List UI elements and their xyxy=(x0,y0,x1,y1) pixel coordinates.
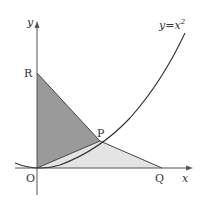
point-label-P: P xyxy=(97,127,105,140)
y-axis-arrow-icon xyxy=(35,21,40,28)
axis-x-label: x xyxy=(182,172,189,185)
diagram-figure: y x R P O Q y=x2 xyxy=(0,0,209,203)
point-label-Q: Q xyxy=(155,172,164,185)
axis-y-label: y xyxy=(26,16,34,29)
curve-label-base: y=x xyxy=(158,19,181,32)
curve-label: y=x2 xyxy=(158,18,186,32)
x-axis-arrow-icon xyxy=(186,166,193,171)
point-label-R: R xyxy=(24,67,33,80)
curve-label-exponent: 2 xyxy=(180,18,186,26)
point-label-O: O xyxy=(26,172,35,185)
